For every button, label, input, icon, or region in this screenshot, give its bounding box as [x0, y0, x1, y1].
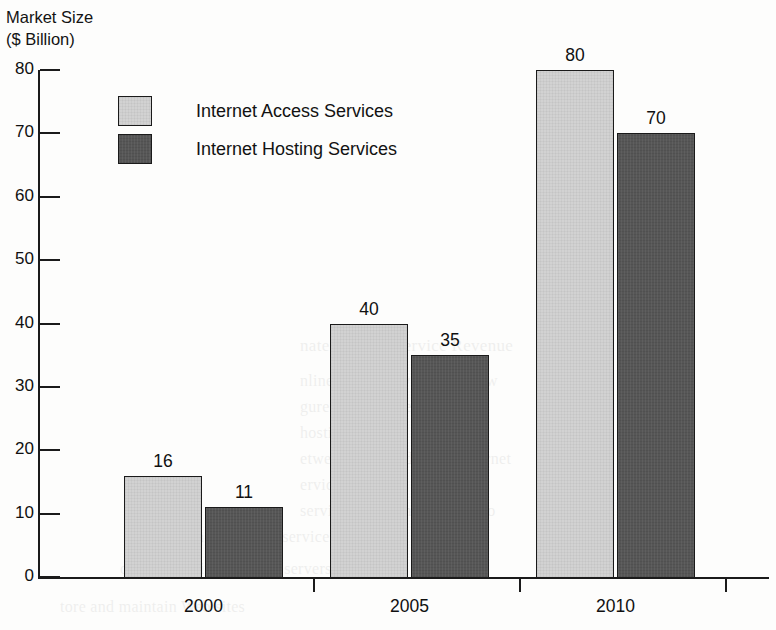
y-axis-tick-label-text: 80 — [0, 59, 34, 79]
x-axis-tick — [519, 579, 521, 592]
legend-label: Internet Access Services — [196, 101, 393, 122]
bar — [205, 507, 283, 578]
y-axis-tick — [40, 576, 60, 578]
chart-title-line-1: Market Size — [6, 6, 93, 28]
y-axis-tick — [40, 449, 60, 451]
y-axis-tick-label-text: 60 — [0, 186, 34, 206]
bar-value-label: 70 — [611, 108, 701, 129]
x-axis-line — [38, 577, 769, 579]
bar-value-label: 11 — [199, 482, 289, 503]
y-axis-line — [38, 70, 40, 579]
legend-swatch-icon-hosting — [118, 134, 152, 164]
bar-value-label: 40 — [324, 299, 414, 320]
bar — [124, 476, 202, 578]
bar — [411, 355, 489, 578]
chart-title-line-2: ($ Billion) — [6, 28, 75, 50]
bar — [330, 324, 408, 579]
y-axis-tick — [40, 386, 60, 388]
legend-label: Internet Hosting Services — [196, 139, 397, 160]
y-axis-tick — [40, 323, 60, 325]
y-axis-tick — [40, 513, 60, 515]
x-axis-tick — [725, 579, 727, 592]
y-axis-tick — [40, 132, 60, 134]
y-axis-tick — [40, 196, 60, 198]
chart-figure: nate Internet Service Revenue nline serv… — [0, 0, 776, 630]
bar — [617, 133, 695, 578]
y-axis-tick-label-text: 70 — [0, 122, 34, 142]
y-axis-tick-label-text: 50 — [0, 249, 34, 269]
y-axis-tick-label-text: 30 — [0, 376, 34, 396]
y-axis-tick — [40, 69, 60, 71]
y-axis-tick-label-text: 20 — [0, 439, 34, 459]
legend-item: Internet Access Services — [118, 92, 397, 130]
y-axis-tick — [40, 259, 60, 261]
x-axis-tick — [313, 579, 315, 592]
y-axis-tick-label-text: 40 — [0, 313, 34, 333]
x-axis-category-label: 2005 — [350, 596, 470, 617]
bar-value-label: 35 — [405, 330, 495, 351]
x-axis-category-label: 2000 — [144, 596, 264, 617]
y-axis-tick-label-text: 0 — [0, 566, 34, 586]
chart-legend: Internet Access Services Internet Hostin… — [118, 92, 397, 168]
legend-item: Internet Hosting Services — [118, 130, 397, 168]
legend-swatch-icon-access — [118, 96, 152, 126]
y-axis-tick-label-text: 10 — [0, 503, 34, 523]
bar — [536, 70, 614, 578]
x-axis-category-label: 2010 — [556, 596, 676, 617]
bar-value-label: 16 — [118, 451, 208, 472]
bar-value-label: 80 — [530, 45, 620, 66]
